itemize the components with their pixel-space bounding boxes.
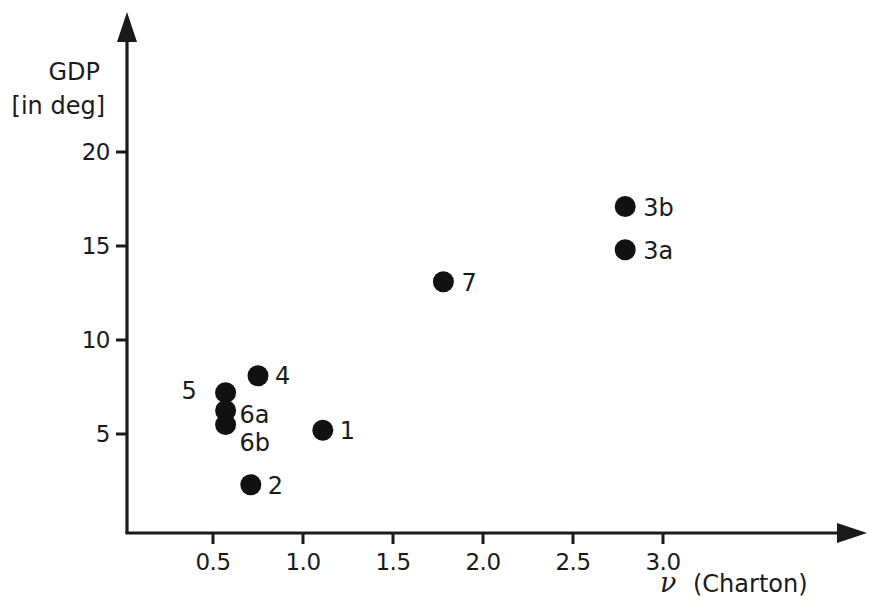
x-tick-label: 0.5: [195, 549, 230, 575]
axes-group: [117, 12, 867, 543]
data-point-marker: [248, 365, 269, 386]
data-point-marker: [215, 414, 236, 435]
chart-canvas: 0.51.01.52.02.53.05101520 123a3b456a6b7 …: [0, 0, 881, 613]
data-point-label: 3a: [643, 237, 673, 265]
y-tick-label: 20: [82, 139, 110, 165]
tick-labels-group: 0.51.01.52.02.53.05101520: [82, 139, 681, 575]
x-axis-title-text: (Charton): [693, 570, 808, 598]
data-point-marker: [240, 474, 261, 495]
y-axis-arrowhead-icon: [117, 12, 137, 42]
scatter-plot-figure: 0.51.01.52.02.53.05101520 123a3b456a6b7 …: [0, 0, 881, 613]
data-point-marker: [615, 239, 636, 260]
x-tick-label: 2.0: [465, 549, 500, 575]
data-point-marker: [215, 382, 236, 403]
x-axis-arrowhead-icon: [837, 523, 867, 543]
y-tick-label: 15: [82, 233, 110, 259]
y-tick-label: 10: [82, 327, 110, 353]
x-tick-label: 1.5: [375, 549, 410, 575]
data-point-label: 1: [340, 417, 355, 445]
data-point-label: 6a: [240, 401, 270, 429]
data-point-label: 2: [268, 472, 283, 500]
x-axis-title-symbol: ν: [660, 567, 676, 598]
data-point-label: 4: [275, 362, 290, 390]
data-point-marker: [615, 196, 636, 217]
data-point-marker: [433, 271, 454, 292]
y-axis-title-line2: [in deg]: [12, 92, 105, 120]
data-point-label: 5: [182, 377, 197, 405]
data-point-marker: [312, 420, 333, 441]
y-tick-label: 5: [96, 421, 110, 447]
data-point-label: 3b: [643, 194, 674, 222]
data-point-label: 7: [461, 269, 476, 297]
data-point-label: 6b: [240, 429, 271, 457]
point-labels-group: 123a3b456a6b7: [182, 194, 674, 500]
x-tick-label: 2.5: [555, 549, 590, 575]
ticks-group: [116, 152, 663, 544]
y-axis-title-line1: GDP: [48, 58, 100, 86]
data-points-group: [215, 196, 636, 495]
x-tick-label: 1.0: [285, 549, 320, 575]
